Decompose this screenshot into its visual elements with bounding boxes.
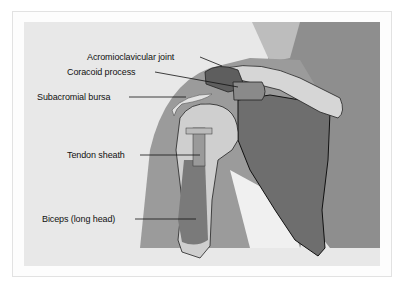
shoulder-illustration [24,22,380,266]
coracoid-process [233,82,265,100]
label-coracoid-process: Coracoid process [67,67,135,77]
illustration-panel [24,22,380,266]
label-acromioclavicular-joint: Acromioclavicular joint [87,52,174,62]
label-tendon-sheath: Tendon sheath [67,150,125,160]
label-biceps-long-head: Biceps (long head) [42,214,115,224]
transverse-ligament [186,128,212,134]
label-subacromial-bursa: Subacromial bursa [37,92,110,102]
